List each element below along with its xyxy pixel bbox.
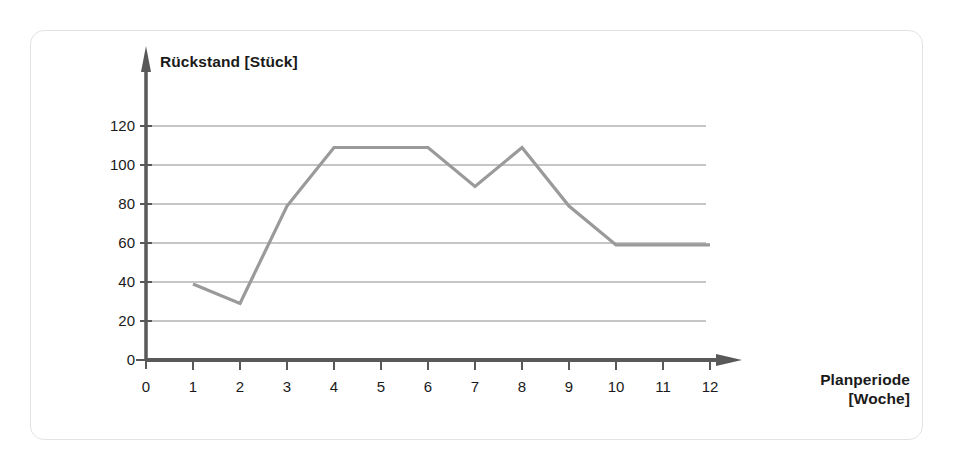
x-axis-arrow-icon [716,354,742,366]
y-axis-ticks [136,126,152,360]
y-axis-arrow-icon [141,46,151,72]
y-axis [136,46,152,360]
line-chart: Rückstand [Stück] Planperiode [Woche] 12… [0,0,955,469]
plot-canvas [0,0,955,469]
x-axis [146,353,742,370]
gridlines [146,126,706,321]
data-series-line [193,148,710,304]
